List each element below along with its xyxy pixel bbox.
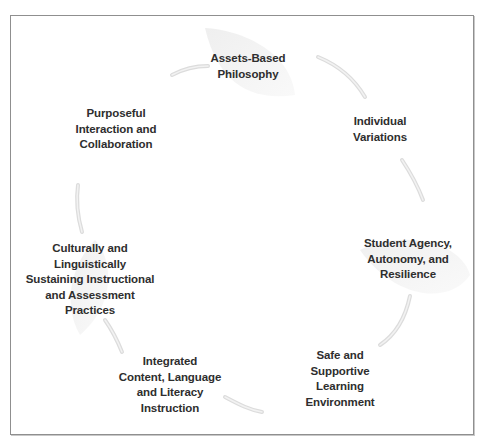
node-line: Student Agency,: [352, 236, 464, 252]
node-culturally-sustaining-practices: Culturally and Linguistically Sustaining…: [20, 241, 160, 319]
node-line: Learning: [296, 379, 384, 395]
node-line: Environment: [296, 395, 384, 411]
node-line: Assets-Based: [196, 51, 300, 67]
node-assets-based-philosophy: Assets-Based Philosophy: [196, 51, 300, 82]
node-line: and Assessment: [20, 288, 160, 304]
node-line: Linguistically: [20, 257, 160, 273]
node-line: Culturally and: [20, 241, 160, 257]
node-line: Integrated: [112, 354, 228, 370]
node-line: Variations: [340, 130, 420, 146]
node-line: Instruction: [112, 401, 228, 417]
node-line: Individual: [340, 114, 420, 130]
node-line: Safe and: [296, 348, 384, 364]
node-line: Philosophy: [196, 67, 300, 83]
node-line: Autonomy, and: [352, 252, 464, 268]
node-line: Practices: [20, 303, 160, 319]
node-line: Interaction and: [66, 122, 166, 138]
node-line: Content, Language: [112, 370, 228, 386]
node-integrated-instruction: Integrated Content, Language and Literac…: [112, 354, 228, 416]
node-line: Sustaining Instructional: [20, 272, 160, 288]
node-safe-supportive-environment: Safe and Supportive Learning Environment: [296, 348, 384, 410]
node-purposeful-interaction: Purposeful Interaction and Collaboration: [66, 106, 166, 153]
node-line: Purposeful: [66, 106, 166, 122]
node-individual-variations: Individual Variations: [340, 114, 420, 145]
node-line: Supportive: [296, 364, 384, 380]
node-line: Resilience: [352, 267, 464, 283]
node-student-agency: Student Agency, Autonomy, and Resilience: [352, 236, 464, 283]
node-line: Collaboration: [66, 137, 166, 153]
node-line: and Literacy: [112, 385, 228, 401]
